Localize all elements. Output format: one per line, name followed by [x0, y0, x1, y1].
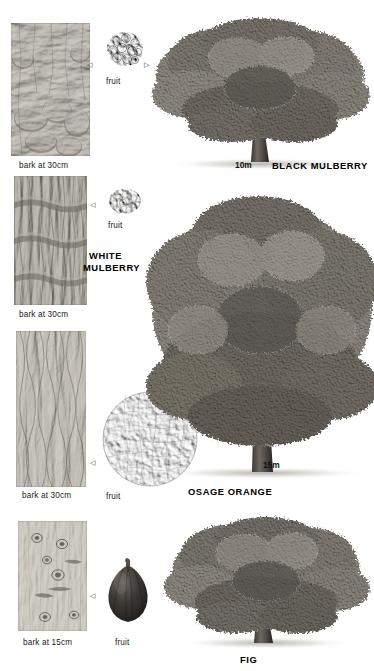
bark-caption-white-mulberry: bark at 30cm [19, 311, 68, 319]
bark-caption-osage-orange: bark at 30cm [22, 492, 71, 500]
fruit-fig [101, 557, 155, 625]
scale-label-osage-orange: 15m [263, 461, 280, 469]
species-name-white-mulberry-line2: MULBERRY [83, 262, 140, 273]
fruit-caption-osage-orange: fruit [106, 493, 120, 501]
scale-label-black-mulberry: 10m [235, 161, 252, 169]
fruit-caption-white-mulberry: fruit [108, 222, 122, 230]
bark-caption-black-mulberry: bark at 30cm [19, 162, 68, 170]
species-name-black-mulberry: BLACK MULBERRY [272, 160, 368, 171]
pointer-arrow-left-osage-orange: ◁ [90, 460, 95, 467]
illustration-plate: bark at 30cm ◁ ▷ fruit [0, 0, 374, 671]
species-name-fig: FIG [240, 654, 257, 665]
tree-osage-orange [140, 190, 374, 480]
pointer-arrow-left-fig: ◁ [90, 593, 95, 600]
fruit-caption-fig: fruit [115, 639, 129, 647]
species-name-osage-orange: OSAGE ORANGE [188, 486, 272, 497]
bark-panel-fig [18, 521, 87, 631]
bark-panel-osage-orange [16, 331, 86, 487]
bark-panel-white-mulberry [14, 176, 87, 305]
bark-caption-fig: bark at 15cm [23, 639, 72, 647]
fruit-caption-black-mulberry: fruit [106, 78, 120, 86]
tree-fig [170, 513, 374, 653]
species-name-white-mulberry-line1: WHITE [89, 250, 122, 261]
pointer-arrow-left-white-mulberry: ◁ [90, 202, 95, 209]
pointer-arrow-left-black-mulberry: ◁ [87, 62, 92, 69]
pointer-arrow-right-black-mulberry: ▷ [144, 62, 149, 69]
fruit-black-mulberry [104, 28, 146, 68]
bark-panel-black-mulberry [11, 23, 90, 156]
tree-black-mulberry [152, 12, 374, 172]
fruit-white-mulberry [107, 186, 143, 216]
